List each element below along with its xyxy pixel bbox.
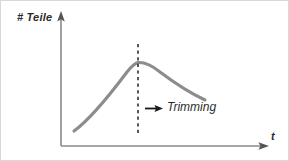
y-axis-label: # Teile: [17, 12, 52, 23]
x-axis-label: t: [271, 131, 275, 142]
figure-container: # Teile t Trimming: [0, 0, 289, 161]
trimming-annotation-label: Trimming: [167, 101, 216, 113]
trimming-arrow-icon: [145, 105, 163, 112]
arrow-up-icon: [57, 11, 65, 22]
data-curve: [74, 63, 205, 131]
arrow-right-icon: [259, 142, 270, 150]
plot-area: [0, 0, 289, 161]
